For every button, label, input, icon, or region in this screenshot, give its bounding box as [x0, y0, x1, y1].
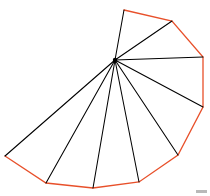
hub-point-group [113, 58, 117, 62]
hub-vertex-dot [113, 58, 117, 62]
spoke-v2 [115, 57, 203, 60]
polygon-outline-group [5, 10, 203, 188]
spoke-v8 [5, 60, 115, 156]
spoke-v3 [115, 60, 203, 107]
corner-artifact-group [196, 190, 207, 193]
fan-triangulation-diagram [0, 0, 210, 196]
spoke-v0 [115, 10, 124, 60]
polygon-outline [5, 10, 203, 188]
triangulation-spokes-group [5, 10, 203, 188]
corner-artifact-mark [196, 190, 207, 193]
spoke-v1 [115, 21, 172, 60]
figure-canvas [0, 0, 210, 196]
